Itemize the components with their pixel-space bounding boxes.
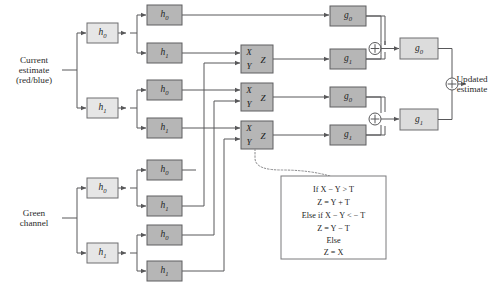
filter-label-bottom-s1-h0: h0 bbox=[98, 182, 106, 194]
wire-group-bottom-stage1-h1-out bbox=[117, 235, 146, 271]
updated-estimate-line2: estimate bbox=[456, 84, 487, 94]
wire-bottom-s2-h1-to-xyz1-y bbox=[181, 63, 240, 206]
filter-sub: 1 bbox=[165, 205, 168, 212]
note-line-3: Else if X − Y < − T bbox=[302, 211, 365, 220]
threshold-2-x-label: X bbox=[246, 85, 252, 95]
synth-sub: 1 bbox=[349, 134, 352, 141]
adder-2 bbox=[369, 113, 381, 125]
note-line-1: If X − Y > T bbox=[313, 185, 354, 194]
filter-sub: 0 bbox=[103, 32, 106, 39]
threshold-2-y-label: Y bbox=[246, 99, 251, 109]
synthesis-label-g0-final: g0 bbox=[415, 43, 423, 55]
threshold-1-y-label: Y bbox=[246, 61, 251, 71]
filter-label-top-s2-h1-b: h1 bbox=[160, 122, 168, 134]
synthesis-label-g1-final: g1 bbox=[415, 114, 423, 126]
synthesis-label-g1-b: g1 bbox=[344, 129, 352, 141]
wire-group-bottom-stage1-h0-out bbox=[117, 170, 146, 206]
filter-sub: 0 bbox=[165, 169, 168, 176]
wire-bottom-s2-h0b-to-xyz2-y bbox=[181, 101, 240, 235]
filter-sub: 0 bbox=[165, 234, 168, 241]
wire-group-green-channel-input bbox=[62, 188, 86, 253]
filter-sub: 1 bbox=[165, 52, 168, 59]
green-channel-line1: Green bbox=[20, 208, 49, 218]
synth-sub: 0 bbox=[349, 15, 352, 22]
note-line-2: Z = Y + T bbox=[317, 198, 350, 207]
green-channel-line2: channel bbox=[20, 218, 49, 228]
filter-label-bottom-s2-h1: h1 bbox=[160, 200, 168, 212]
synth-sub: 1 bbox=[420, 118, 423, 125]
filter-sub: 0 bbox=[165, 14, 168, 21]
output-label-updated-estimate: Updated estimate bbox=[456, 74, 487, 94]
synthesis-label-g0-b: g0 bbox=[344, 91, 352, 103]
wire-bottom-s2-h1b-to-xyz3-y bbox=[181, 139, 240, 271]
filter-label-bottom-s2-h1-b: h1 bbox=[160, 265, 168, 277]
filter-label-top-s1-h0: h0 bbox=[98, 27, 106, 39]
input-label-current-estimate: Current estimate (red/blue) bbox=[16, 55, 52, 85]
filter-label-bottom-s1-h1: h1 bbox=[98, 247, 106, 259]
threshold-3-y-label: Y bbox=[246, 137, 251, 147]
threshold-1-z-label: Z bbox=[260, 55, 265, 65]
threshold-1-x-label: X bbox=[246, 47, 252, 57]
callout-dotted-curve bbox=[255, 149, 330, 176]
current-estimate-line3: (red/blue) bbox=[16, 75, 52, 85]
wire-group-top-stage1-h1-out bbox=[117, 90, 146, 128]
filter-sub: 1 bbox=[165, 270, 168, 277]
threshold-2-z-label: Z bbox=[260, 93, 265, 103]
input-label-green-channel: Green channel bbox=[20, 208, 49, 228]
note-line-6: Z = X bbox=[324, 248, 344, 257]
wire-group-top-stage1-h0-out bbox=[117, 15, 146, 53]
filter-sub: 0 bbox=[165, 89, 168, 96]
synthesis-label-g1-a: g1 bbox=[344, 53, 352, 65]
note-line-5: Else bbox=[326, 236, 340, 245]
filter-sub: 1 bbox=[103, 107, 106, 114]
filter-sub: 1 bbox=[165, 127, 168, 134]
current-estimate-line1: Current bbox=[16, 55, 52, 65]
synth-sub: 0 bbox=[420, 47, 423, 54]
filter-sub: 1 bbox=[103, 252, 106, 259]
filter-sub: 0 bbox=[103, 187, 106, 194]
wire-group-current-estimate-input bbox=[62, 33, 86, 108]
filter-label-top-s2-h1: h1 bbox=[160, 47, 168, 59]
note-line-4: Z = Y − T bbox=[317, 224, 350, 233]
adder-1 bbox=[369, 43, 381, 55]
filter-label-top-s2-h0: h0 bbox=[160, 9, 168, 21]
updated-estimate-line1: Updated bbox=[456, 74, 487, 84]
filter-label-top-s1-h1: h1 bbox=[98, 102, 106, 114]
synth-sub: 0 bbox=[349, 96, 352, 103]
threshold-3-x-label: X bbox=[246, 123, 252, 133]
filter-label-bottom-s2-h0-b: h0 bbox=[160, 229, 168, 241]
threshold-3-z-label: Z bbox=[260, 131, 265, 141]
filter-label-bottom-s2-h0: h0 bbox=[160, 164, 168, 176]
filter-label-top-s2-h0-b: h0 bbox=[160, 84, 168, 96]
synthesis-label-g0-a: g0 bbox=[344, 10, 352, 22]
figure-canvas: Current estimate (red/blue) Green channe… bbox=[0, 0, 494, 300]
current-estimate-line2: estimate bbox=[16, 65, 52, 75]
synth-sub: 1 bbox=[349, 58, 352, 65]
